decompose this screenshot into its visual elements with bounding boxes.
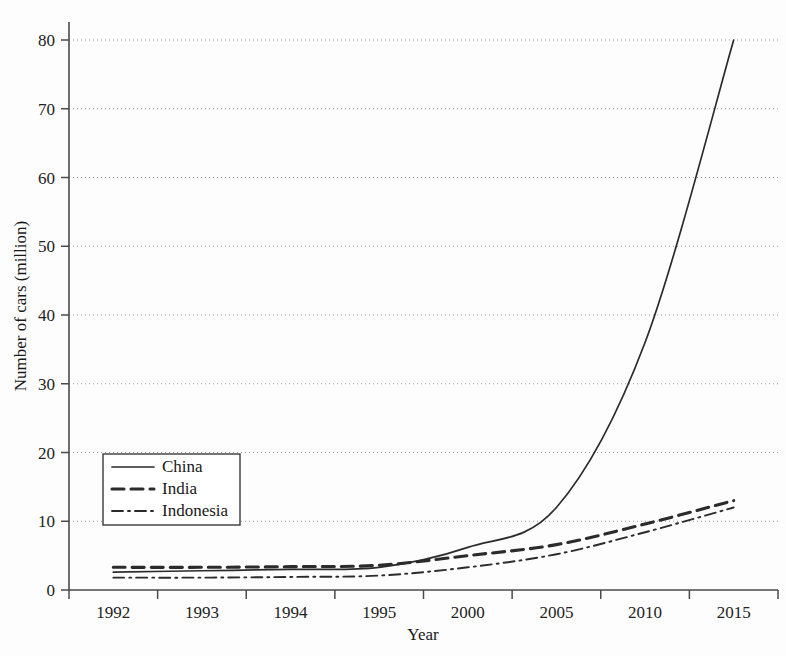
x-tick-group xyxy=(69,590,778,599)
x-axis-title: Year xyxy=(407,625,439,644)
y-tick-label: 50 xyxy=(38,237,55,256)
x-tick-label: 1993 xyxy=(185,603,219,622)
x-tick-label: 2015 xyxy=(717,603,751,622)
y-tick-label: 20 xyxy=(38,444,55,463)
chart-legend: ChinaIndiaIndonesia xyxy=(103,454,240,525)
x-tick-label: 1992 xyxy=(96,603,130,622)
line-chart: 01020304050607080 1992199319941995200020… xyxy=(0,0,786,656)
x-tick-label: 1995 xyxy=(362,603,396,622)
x-tick-label-group: 19921993199419952000200520102015 xyxy=(96,603,750,622)
y-tick-label: 70 xyxy=(38,100,55,119)
x-tick-label: 2000 xyxy=(451,603,485,622)
y-tick-label: 30 xyxy=(38,375,55,394)
x-tick-label: 2010 xyxy=(628,603,662,622)
chart-figure: 01020304050607080 1992199319941995200020… xyxy=(0,0,786,656)
y-tick-label-group: 01020304050607080 xyxy=(38,31,55,600)
legend-label-china: China xyxy=(162,457,203,476)
y-tick-label: 10 xyxy=(38,512,55,531)
y-tick-label: 60 xyxy=(38,169,55,188)
y-tick-label: 0 xyxy=(47,581,56,600)
legend-label-indonesia: Indonesia xyxy=(162,501,229,520)
y-tick-label: 80 xyxy=(38,31,55,50)
x-tick-label: 1994 xyxy=(274,603,309,622)
x-tick-label: 2005 xyxy=(539,603,573,622)
y-tick-label: 40 xyxy=(38,306,55,325)
gridline-group xyxy=(69,40,778,521)
legend-label-india: India xyxy=(162,479,197,498)
y-tick-group xyxy=(61,40,69,590)
y-axis-title: Number of cars (million) xyxy=(11,221,30,391)
